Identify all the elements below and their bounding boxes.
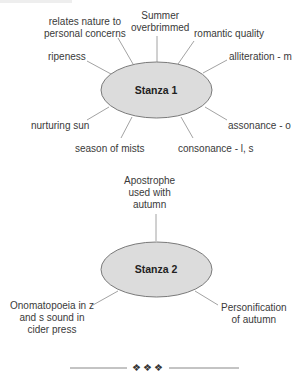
divider-ornament-icon: ❖❖❖ (127, 361, 169, 375)
branch-alliteration: alliteration - m (229, 51, 292, 63)
branch-text-line: Onomatopoeia in z (10, 300, 94, 312)
branch-text-line: cider press (10, 324, 94, 336)
branch-text-line: autumn (124, 199, 175, 211)
stanza-1-title: Stanza 1 (101, 84, 211, 96)
branch-text-line: and s sound in (10, 312, 94, 324)
branch-text-line: used with (124, 187, 175, 199)
branch-text-line: relates nature to (44, 16, 126, 28)
branch-text-line: Apostrophe (124, 175, 175, 187)
branch-onomatopoeia: Onomatopoeia in z and s sound in cider p… (10, 300, 94, 336)
branch-text-line: overbrimmed (131, 22, 189, 34)
branch-nurturing-sun: nurturing sun (31, 120, 89, 132)
branch-season-of-mists: season of mists (75, 143, 144, 155)
branch-consonance: consonance - l, s (178, 143, 254, 155)
branch-text-line: of autumn (221, 314, 287, 326)
branch-relates-nature: relates nature to personal concerns (44, 16, 126, 40)
branch-romantic-quality: romantic quality (194, 28, 264, 40)
branch-text-line: Personification (221, 302, 287, 314)
branch-apostrophe: Apostrophe used with autumn (124, 175, 175, 211)
stanza-2-title: Stanza 2 (101, 263, 211, 275)
branch-ripeness: ripeness (48, 51, 86, 63)
branch-summer-overbrimmed: Summer overbrimmed (131, 10, 189, 34)
branch-text-line: personal concerns (44, 28, 126, 40)
branch-text-line: Summer (131, 10, 189, 22)
branch-assonance: assonance - o (228, 120, 291, 132)
branch-personification: Personification of autumn (221, 302, 287, 326)
